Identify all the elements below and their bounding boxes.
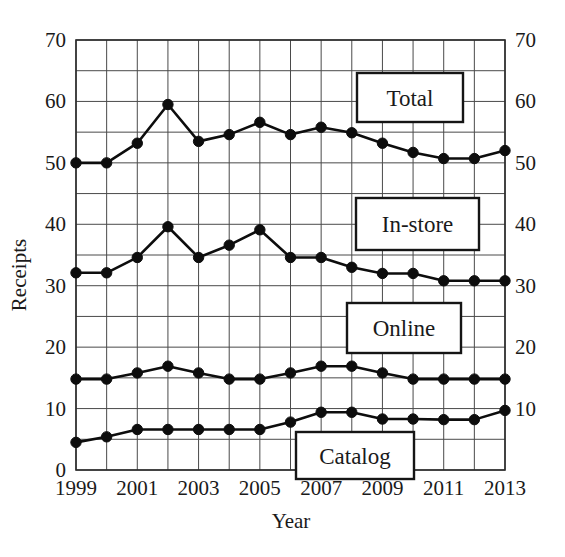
data-point — [377, 268, 387, 278]
y-tick-label-left: 70 — [45, 28, 66, 52]
legend-label: Total — [387, 86, 434, 111]
legend-item-online[interactable]: Online — [347, 303, 461, 353]
x-tick-label: 2005 — [239, 476, 281, 500]
x-tick-label: 2003 — [178, 476, 220, 500]
data-point — [193, 368, 203, 378]
data-point — [255, 225, 265, 235]
data-point — [377, 368, 387, 378]
data-point — [71, 268, 81, 278]
data-point — [500, 276, 510, 286]
data-point — [408, 147, 418, 157]
data-point — [285, 417, 295, 427]
y-tick-label-right: 40 — [515, 212, 536, 236]
data-point — [224, 374, 234, 384]
legend-label: Catalog — [319, 444, 391, 469]
x-tick-label: 2001 — [116, 476, 158, 500]
data-point — [71, 374, 81, 384]
data-point — [255, 374, 265, 384]
data-point — [377, 414, 387, 424]
y-axis-title: Receipts — [7, 239, 31, 311]
data-point — [347, 361, 357, 371]
data-point — [193, 136, 203, 146]
data-point — [316, 361, 326, 371]
y-tick-label-left: 40 — [45, 212, 66, 236]
x-axis-title: Year — [272, 509, 311, 533]
data-point — [163, 424, 173, 434]
data-point — [101, 158, 111, 168]
data-point — [163, 99, 173, 109]
data-point — [132, 138, 142, 148]
data-point — [101, 374, 111, 384]
data-point — [193, 252, 203, 262]
y-tick-label-right: 50 — [515, 151, 536, 175]
y-tick-label-right: 70 — [515, 28, 536, 52]
data-point — [439, 374, 449, 384]
data-point — [101, 268, 111, 278]
data-point — [132, 368, 142, 378]
chart-container: 706050403020100 70605040302010 199920012… — [0, 0, 565, 557]
data-point — [408, 268, 418, 278]
y-tick-label-left: 60 — [45, 89, 66, 113]
data-point — [347, 128, 357, 138]
data-point — [316, 407, 326, 417]
data-point — [469, 153, 479, 163]
data-point — [408, 414, 418, 424]
data-point — [224, 424, 234, 434]
data-point — [469, 374, 479, 384]
data-point — [163, 361, 173, 371]
data-point — [224, 240, 234, 250]
data-point — [71, 158, 81, 168]
data-point — [377, 138, 387, 148]
y-tick-label-right: 20 — [515, 335, 536, 359]
legend-item-total[interactable]: Total — [357, 73, 463, 122]
y-tick-label-right: 30 — [515, 274, 536, 298]
data-point — [347, 407, 357, 417]
legend-label: In-store — [382, 212, 454, 237]
y-tick-label-left: 10 — [45, 397, 66, 421]
legend-label: Online — [373, 316, 436, 341]
legend-item-in-store[interactable]: In-store — [356, 198, 479, 250]
x-tick-label: 2013 — [484, 476, 526, 500]
data-point — [439, 153, 449, 163]
y-tick-label-right: 10 — [515, 397, 536, 421]
data-point — [132, 252, 142, 262]
y-tick-label-left: 20 — [45, 335, 66, 359]
data-point — [500, 405, 510, 415]
data-point — [132, 424, 142, 434]
data-point — [163, 222, 173, 232]
data-point — [285, 252, 295, 262]
data-point — [500, 145, 510, 155]
data-point — [101, 432, 111, 442]
data-point — [469, 414, 479, 424]
y-tick-label-left: 30 — [45, 274, 66, 298]
data-point — [255, 424, 265, 434]
data-point — [285, 129, 295, 139]
data-point — [439, 414, 449, 424]
data-point — [285, 368, 295, 378]
data-point — [347, 262, 357, 272]
data-point — [439, 276, 449, 286]
data-point — [500, 374, 510, 384]
data-point — [255, 117, 265, 127]
y-tick-label-right: 60 — [515, 89, 536, 113]
data-point — [224, 129, 234, 139]
data-point — [193, 424, 203, 434]
chart-background — [0, 0, 565, 557]
line-chart: 706050403020100 70605040302010 199920012… — [0, 0, 565, 557]
data-point — [316, 122, 326, 132]
legend-item-catalog[interactable]: Catalog — [296, 432, 414, 479]
y-tick-label-left: 50 — [45, 151, 66, 175]
data-point — [316, 252, 326, 262]
data-point — [469, 276, 479, 286]
x-tick-label: 1999 — [55, 476, 97, 500]
data-point — [71, 437, 81, 447]
data-point — [408, 374, 418, 384]
x-tick-label: 2011 — [423, 476, 464, 500]
